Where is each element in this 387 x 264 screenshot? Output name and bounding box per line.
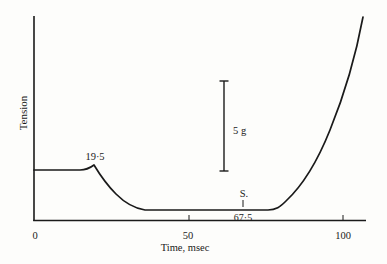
stimulus-time-annotation: 67·5	[234, 212, 252, 223]
x-axis-label: Time, msec	[161, 242, 210, 253]
x-tick-label-0: 0	[32, 230, 37, 241]
x-tick-label-100: 100	[335, 230, 351, 241]
peak-annotation: 19·5	[85, 151, 104, 162]
stimulus-label: S.	[240, 188, 248, 199]
y-axis-label: Tension	[17, 95, 29, 130]
chart-canvas: Tension Time, msec 0 50 100 19·5 S. 67·5…	[0, 0, 387, 264]
x-tick-label-50: 50	[183, 230, 194, 241]
scale-bar-label: 5 g	[233, 125, 247, 136]
tension-curve	[34, 17, 363, 210]
